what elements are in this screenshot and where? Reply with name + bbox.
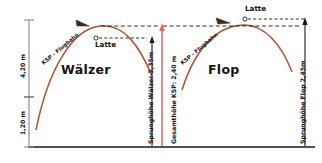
jump-height-arrow-top-left — [149, 36, 154, 43]
left-height-upper-label: 4,20 m — [20, 54, 26, 78]
jump-height-label-right: Sprunghöhe Flop 2,45m — [300, 61, 306, 144]
flight-path-curve-right — [182, 25, 292, 90]
flight-path-arrow-right — [216, 18, 230, 24]
diagram-graphics — [0, 0, 322, 163]
flight-path-arrow-left — [76, 20, 89, 26]
flight-path-curve-left — [36, 26, 152, 130]
bar-marker-right — [243, 17, 247, 21]
bar-label-left: Latte — [95, 41, 116, 48]
total-height-arrow-top — [159, 23, 165, 31]
bar-label-right: Latte — [245, 5, 266, 12]
technique-title-left: Wälzer — [61, 64, 111, 77]
diagram-canvas: 4,20 m 1,20 m KSP - Flugbahn KSP - Flugb… — [0, 0, 322, 163]
jump-height-arrow-top-right — [302, 17, 307, 25]
jump-height-label-left: Sprunghöhe Wälzer 2,35m — [148, 52, 154, 144]
left-height-lower-label: 1,20 m — [20, 111, 26, 135]
total-height-label-center: Gesamthöhe KSP: 2,40 m — [171, 56, 177, 144]
technique-title-right: Flop — [208, 64, 240, 77]
